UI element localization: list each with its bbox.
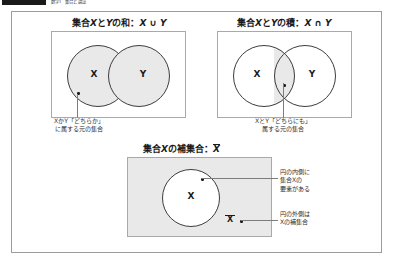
complement-leader-line-outside	[241, 220, 278, 221]
intersection-label-x: X	[247, 69, 267, 79]
intersection-title-suffix: の積：	[277, 18, 304, 28]
annot-outside-line1: 円の外側は	[280, 210, 310, 218]
page-header: 数学Ⅰ 集合と論証	[0, 0, 393, 9]
intersection-title-var-x: X	[255, 18, 262, 28]
union-leader-line	[77, 94, 78, 118]
union-caption-line1: XかY「どちらか」	[31, 117, 127, 125]
union-caption: XかY「どちらか」 に属する元の集合	[31, 117, 127, 134]
complement-universe-box: X X	[127, 157, 272, 237]
intersection-panel-title: 集合XとYの積：X ∩ Y	[237, 16, 332, 29]
complement-leader-line-inside	[201, 178, 278, 179]
complement-title-expression: X	[213, 144, 220, 154]
union-title-var-x: X	[90, 18, 97, 28]
complement-title-var-x: X	[161, 144, 168, 154]
intersection-caption-line1: XとY「どちらにも」	[231, 117, 335, 125]
header-title: 数学Ⅰ 集合と論証	[51, 0, 86, 5]
complement-title-prefix: 集合	[143, 144, 161, 154]
annot-inside-line1: 円の内側に	[280, 168, 310, 176]
union-title-mid: と	[97, 18, 106, 28]
union-diagram-box: X Y	[51, 31, 186, 118]
intersection-leader-line	[283, 83, 284, 118]
complement-label-x: X	[181, 191, 201, 201]
annot-inside-line2: 集合Xの	[280, 176, 310, 184]
complement-title-suffix: の補集合：	[168, 144, 213, 154]
annot-outside-line2: Xの補集合	[280, 218, 310, 226]
intersection-caption-line2: 属する元の集合	[231, 125, 335, 133]
intersection-diagram-box: X Y	[217, 31, 352, 118]
annot-inside-line3: 要素がある	[280, 185, 310, 193]
union-title-expression: X ∪ Y	[139, 18, 166, 28]
intersection-caption: XとY「どちらにも」 属する元の集合	[231, 117, 335, 134]
complement-label-bar-x: X	[225, 215, 235, 224]
intersection-label-y: Y	[302, 69, 322, 79]
union-caption-line2: に属する元の集合	[31, 125, 127, 133]
header-chip	[2, 0, 46, 5]
union-title-prefix: 集合	[72, 18, 90, 28]
union-label-y: Y	[133, 69, 153, 79]
intersection-title-expression: X ∩ Y	[304, 18, 331, 28]
intersection-title-prefix: 集合	[237, 18, 255, 28]
union-panel-title: 集合XとYの和：X ∪ Y	[72, 16, 167, 29]
complement-annotation-inside: 円の内側に 集合Xの 要素がある	[280, 168, 310, 193]
complement-panel-title: 集合Xの補集合：X	[143, 142, 220, 155]
union-label-x: X	[84, 69, 104, 79]
complement-annotation-outside: 円の外側は Xの補集合	[280, 210, 310, 227]
union-title-suffix: の和：	[112, 18, 139, 28]
intersection-title-mid: と	[262, 18, 271, 28]
figure-frame: 集合XとYの和：X ∪ Y X Y XかY「どちらか」 に属する元の集合 集合X…	[11, 11, 382, 253]
